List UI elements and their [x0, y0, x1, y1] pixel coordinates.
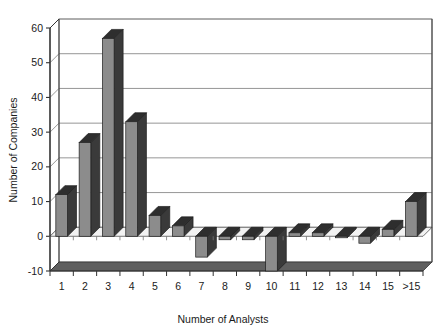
y-tick-label: 30: [31, 126, 43, 138]
x-tick-label: 6: [175, 280, 181, 292]
bar: [266, 227, 287, 271]
x-tick-label: 12: [312, 280, 324, 292]
x-tick-label: 1: [59, 280, 65, 292]
x-tick-label: >15: [402, 280, 420, 292]
x-tick-label: 5: [152, 280, 158, 292]
bar: [102, 29, 123, 236]
y-tick-label: 50: [31, 56, 43, 68]
x-tick-label: 11: [289, 280, 300, 292]
x-tick-label: 9: [245, 280, 251, 292]
chart-canvas: -100102030405060 123456789101112131415>1…: [0, 0, 446, 330]
y-tick-label: -10: [28, 265, 43, 277]
y-tick-label: 20: [31, 160, 43, 172]
x-tick-label: 14: [359, 280, 371, 292]
x-tick-label: 8: [222, 280, 228, 292]
y-tick-label: 10: [31, 195, 43, 207]
y-tick-label: 60: [31, 22, 43, 34]
x-tick-label: 4: [129, 280, 135, 292]
x-tick-label: 13: [336, 280, 348, 292]
x-tick-label: 3: [105, 280, 111, 292]
bar: [406, 193, 427, 237]
bar: [79, 134, 100, 237]
y-tick-label: 0: [37, 230, 43, 242]
bar: [126, 113, 147, 237]
y-tick-label: 40: [31, 91, 43, 103]
x-axis-title: Number of Analysts: [177, 313, 268, 325]
y-axis-title: Number of Companies: [7, 97, 19, 202]
x-tick-label: 15: [382, 280, 394, 292]
x-tick-label: 2: [82, 280, 88, 292]
bar-chart: -100102030405060 123456789101112131415>1…: [0, 0, 446, 330]
bar: [56, 186, 77, 237]
x-tick-label: 10: [266, 280, 278, 292]
x-tick-label: 7: [199, 280, 205, 292]
